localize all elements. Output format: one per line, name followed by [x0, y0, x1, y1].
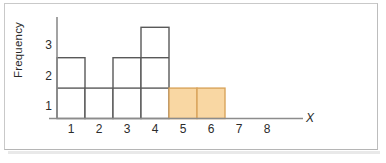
histogram-chart: Frequency X 3 2 1 1 2 3 4 5 6 7 8 [0, 0, 386, 163]
bar-4 [141, 27, 169, 118]
bar-2 [85, 88, 113, 118]
plot-canvas [0, 0, 386, 163]
bars-group [57, 27, 225, 118]
bar-6 [197, 88, 225, 118]
bar-5 [169, 88, 197, 118]
